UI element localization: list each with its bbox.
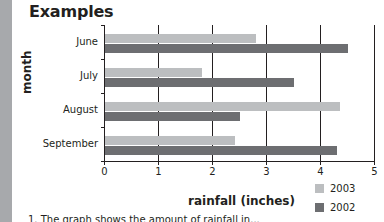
legend-item-2003: 2003 (315, 183, 355, 194)
category-label: September (43, 138, 98, 149)
y-tick (101, 127, 105, 128)
bar-2003-august (105, 102, 340, 111)
legend-label-2003: 2003 (330, 183, 355, 194)
bar-2002-september (105, 146, 337, 155)
legend-label-2002: 2002 (330, 202, 355, 213)
bar-2003-september (105, 136, 235, 145)
caption-text: 1. The graph shows the amount of rainfal… (28, 214, 260, 222)
legend-swatch-2003 (315, 184, 324, 193)
legend-item-2002: 2002 (315, 202, 355, 213)
category-label: June (76, 36, 98, 47)
x-tick-label: 3 (263, 166, 269, 177)
y-tick (101, 25, 105, 26)
x-tick-label: 5 (371, 166, 377, 177)
bar-2002-june (105, 44, 348, 53)
legend-swatch-2002 (315, 203, 324, 212)
x-tick-label: 2 (209, 166, 215, 177)
y-tick (101, 93, 105, 94)
y-tick (101, 59, 105, 60)
gridline (374, 25, 375, 165)
page-title: Examples (29, 2, 113, 21)
x-tick-label: 1 (155, 166, 161, 177)
x-tick-label: 4 (317, 166, 323, 177)
bar-2003-july (105, 68, 202, 77)
category-label: August (63, 104, 98, 115)
category-label: July (80, 70, 98, 81)
x-tick-label: 0 (101, 166, 107, 177)
left-gray-strip (0, 0, 12, 222)
bar-2003-june (105, 34, 256, 43)
x-axis-line (104, 161, 375, 162)
y-axis-label: month (20, 50, 34, 94)
x-axis-label: rainfall (inches) (188, 194, 295, 208)
y-tick (101, 161, 105, 162)
bar-2002-august (105, 112, 240, 121)
bar-2002-july (105, 78, 294, 87)
